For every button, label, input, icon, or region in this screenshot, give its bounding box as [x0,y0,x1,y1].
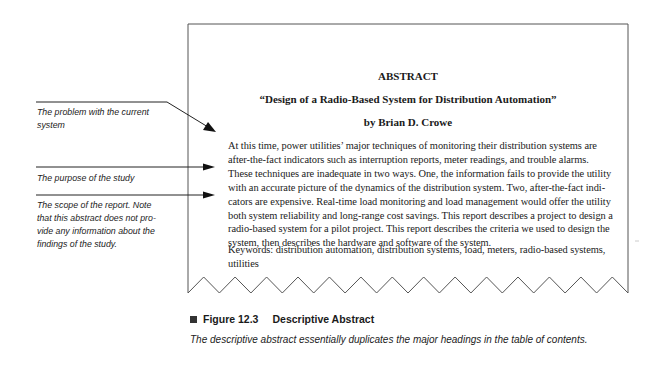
keywords: Keywords: distribution automation, distr… [228,243,613,271]
annotation-scope: The scope of the report. Note that this … [37,199,156,251]
body-line: after-the-fact indicators such as interr… [228,153,613,167]
report-title: “Design of a Radio-Based System for Dist… [188,93,628,105]
arrowhead-purpose-icon [203,164,215,171]
figure-caption-description: The descriptive abstract essentially dup… [190,334,587,345]
annotation-line: The purpose of the study [37,172,134,185]
annotation-line: vide any information about the [37,225,156,238]
body-line: radio-based system for a pilot project. … [228,222,613,236]
annotation-line: that this abstract does not pro- [37,212,156,225]
figure-number: Figure 12.3 [203,313,258,325]
abstract-heading: ABSTRACT [188,70,628,82]
body-line: with an accurate picture of the dynamics… [228,181,613,195]
arrowhead-scope-icon [203,192,215,199]
body-line: These techniques are inadequate in two w… [228,167,613,181]
keywords-line: utilities [228,257,613,271]
body-line: cators are expensive. Real-time load mon… [228,195,613,209]
figure-caption-title: Figure 12.3Descriptive Abstract [190,313,374,325]
annotation-purpose: The purpose of the study [37,172,134,185]
figure-title: Descriptive Abstract [272,313,374,325]
abstract-body: At this time, power utilities’ major tec… [228,139,613,250]
keywords-line: Keywords: distribution automation, distr… [228,243,613,257]
annotation-line: system [37,119,149,132]
annotation-line: The scope of the report. Note [37,199,156,212]
square-bullet-icon [190,316,197,323]
body-line: both system reliability and long-range c… [228,209,613,223]
annotation-line: findings of the study. [37,238,156,251]
body-line: At this time, power utilities’ major tec… [228,139,613,153]
report-author: by Brian D. Crowe [188,116,628,128]
annotation-problem: The problem with the current system [37,106,149,132]
annotation-line: The problem with the current [37,106,149,119]
